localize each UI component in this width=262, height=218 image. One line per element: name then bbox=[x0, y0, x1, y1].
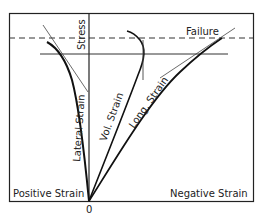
origin-label: 0 bbox=[86, 204, 92, 215]
positive-strain-label: Positive Strain bbox=[13, 188, 84, 199]
failure-label: Failure bbox=[186, 26, 219, 37]
longitudinal-strain-label: Long. Strain bbox=[127, 75, 171, 131]
negative-strain-label: Negative Strain bbox=[170, 188, 248, 199]
stress-strain-diagram: Stress Failure Lateral Strain Vol. Strai… bbox=[0, 0, 262, 218]
stress-axis-label: Stress bbox=[76, 19, 87, 50]
